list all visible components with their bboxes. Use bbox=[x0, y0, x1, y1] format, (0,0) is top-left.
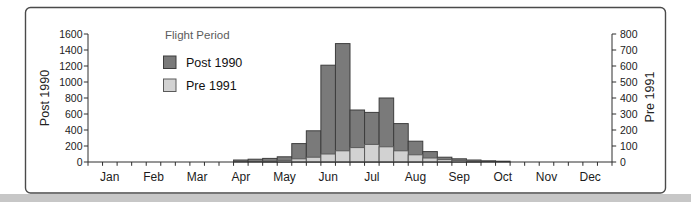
pre-1991-bar bbox=[350, 148, 365, 162]
legend-label-post-1990: Post 1990 bbox=[186, 56, 242, 70]
left-axis-title: Post 1990 bbox=[38, 70, 52, 126]
pre-1991-bar bbox=[335, 151, 350, 162]
month-label: Aug bbox=[405, 170, 426, 184]
pre-1991-bar bbox=[408, 155, 423, 162]
bottom-strip bbox=[0, 194, 691, 202]
right-tick-label: 700 bbox=[620, 44, 638, 56]
month-label: Nov bbox=[536, 170, 557, 184]
pre-1991-bar bbox=[423, 158, 438, 162]
month-label: Jan bbox=[100, 170, 119, 184]
right-tick-label: 200 bbox=[620, 124, 638, 136]
figure-frame: 1600140012001000800600400200080070060050… bbox=[0, 0, 691, 202]
month-label: Mar bbox=[187, 170, 208, 184]
pre-1991-bar bbox=[394, 151, 409, 162]
right-tick-label: 400 bbox=[620, 92, 638, 104]
right-tick-label: 100 bbox=[620, 140, 638, 152]
month-label: Jul bbox=[364, 170, 379, 184]
pre-1991-bar bbox=[365, 144, 380, 162]
left-tick-label: 800 bbox=[65, 92, 83, 104]
right-axis-title: Pre 1991 bbox=[643, 72, 657, 123]
right-tick-label: 800 bbox=[620, 28, 638, 40]
left-tick-label: 1600 bbox=[59, 28, 83, 40]
flight-period-chart: 1600140012001000800600400200080070060050… bbox=[0, 0, 691, 202]
pre-1991-bar bbox=[306, 157, 321, 162]
legend-label-pre-1991: Pre 1991 bbox=[186, 79, 237, 93]
legend-swatch-post-1990 bbox=[164, 56, 177, 69]
legend-swatch-pre-1991 bbox=[164, 79, 177, 92]
left-tick-label: 1400 bbox=[59, 44, 83, 56]
right-tick-label: 600 bbox=[620, 60, 638, 72]
left-tick-label: 0 bbox=[77, 156, 83, 168]
right-tick-label: 300 bbox=[620, 108, 638, 120]
month-label: Oct bbox=[493, 170, 512, 184]
month-label: Sep bbox=[449, 170, 471, 184]
left-tick-label: 400 bbox=[65, 124, 83, 136]
month-label: Apr bbox=[231, 170, 250, 184]
month-label: May bbox=[273, 170, 296, 184]
legend-title: Flight Period bbox=[165, 29, 230, 41]
month-label: Jun bbox=[319, 170, 338, 184]
post-1990-bar bbox=[335, 44, 350, 162]
pre-1991-bar bbox=[379, 147, 394, 162]
left-tick-label: 600 bbox=[65, 108, 83, 120]
post-1990-bar bbox=[321, 65, 336, 162]
left-tick-label: 200 bbox=[65, 140, 83, 152]
right-tick-label: 500 bbox=[620, 76, 638, 88]
right-tick-label: 0 bbox=[620, 156, 626, 168]
left-tick-label: 1200 bbox=[59, 60, 83, 72]
pre-1991-bar bbox=[321, 154, 336, 162]
month-label: Feb bbox=[143, 170, 164, 184]
left-tick-label: 1000 bbox=[59, 76, 83, 88]
month-label: Dec bbox=[580, 170, 601, 184]
